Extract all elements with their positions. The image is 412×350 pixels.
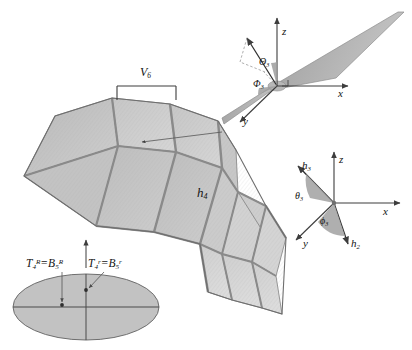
diagram-vector-layer [0, 0, 412, 350]
h2-vector-label: h2 [351, 238, 360, 251]
top-phi-label: Φ3 [253, 79, 264, 90]
theta3-angle-label: θ3 [295, 191, 303, 202]
top-z-axis-label: z [282, 26, 286, 37]
equation-left: T4R=B5R [26, 258, 63, 271]
bottom-inset-coordinate-frame [296, 152, 400, 244]
phi3-angle-label: ϕ3 [320, 216, 328, 227]
h4-label: h4 [197, 186, 208, 201]
inset-z-axis-label: z [339, 154, 343, 165]
h3-vector-label: h3 [302, 160, 311, 173]
section-point-left [60, 303, 64, 307]
equation-right: T4r=B5r [88, 258, 122, 271]
inset-origin [332, 201, 336, 205]
top-y-axis-label: y [243, 116, 248, 127]
v6-label: V6 [140, 66, 151, 80]
top-x-axis-label: x [338, 88, 343, 99]
figure-canvas: V6 h4 z x y Θ3 Φ3 z x y h3 h2 θ3 ϕ3 T4R=… [0, 0, 412, 350]
inset-x-axis-label: x [383, 206, 388, 217]
top-theta-label: Θ3 [259, 57, 269, 68]
blade-upper [272, 12, 404, 90]
span-bracket [117, 86, 176, 100]
theta3-wedge [306, 174, 334, 203]
cross-section-detail [13, 240, 159, 340]
inset-y-axis-label: y [303, 238, 308, 249]
section-point-right [84, 288, 88, 292]
top-inset-coordinate-frame [222, 12, 404, 124]
